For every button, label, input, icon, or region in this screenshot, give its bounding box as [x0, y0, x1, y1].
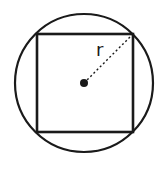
diagram-canvas: r [0, 0, 158, 180]
inscribed-square-diagram: r [0, 0, 158, 180]
radius-line [84, 34, 133, 83]
radius-label: r [96, 39, 104, 60]
center-point [80, 79, 88, 87]
